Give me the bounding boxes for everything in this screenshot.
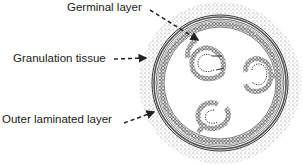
leader-granulation bbox=[114, 58, 146, 59]
hydatid-cyst-illustration bbox=[0, 0, 303, 165]
